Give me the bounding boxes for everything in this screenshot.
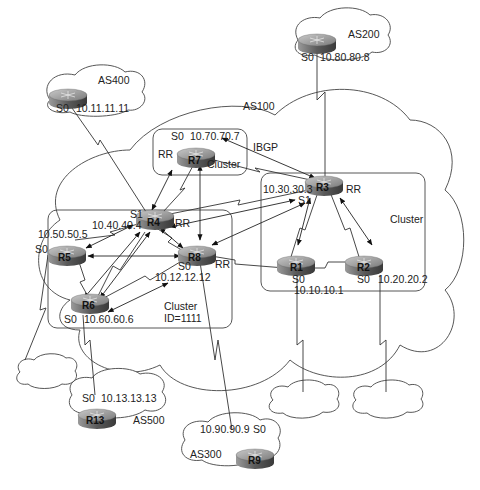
r9-name: R9 [248,455,261,466]
r6-iface: S0 [64,313,77,325]
r2-iface: S0 [357,273,370,285]
r2-name: R2 [357,262,370,273]
r6-name: R6 [82,300,95,311]
r4-cluster-label-2: ID=1111 [164,312,202,324]
as400-iface: S0 [56,102,69,114]
r6-ip: 10.60.60.6 [84,313,134,325]
r2-ip: 10.20.20.2 [378,273,428,285]
as500-label: AS500 [133,414,165,426]
r4-cluster-label-1: Cluster [164,300,198,312]
r7-iface: S0 [171,130,184,142]
r4-role: RR [175,217,191,229]
r3-role: RR [346,183,362,195]
r1-ip: 10.10.10.1 [294,284,344,296]
r5-name: R5 [58,252,71,263]
r7-role: RR [158,148,174,160]
r13-name: R13 [86,415,105,426]
small-cloud-2 [269,380,339,418]
as300-label: AS300 [190,448,222,460]
as200-iface: S0 [301,51,314,63]
as400-label: AS400 [98,74,130,86]
r3-name: R3 [316,182,329,193]
r13-ip: 10.13.13.13 [101,392,157,404]
as200-ip: 10.80.80.8 [320,51,370,63]
r8-role: RR [215,258,231,270]
r8-ip: 10.12.12.12 [155,271,211,283]
r3-iface: S1 [298,194,311,206]
as200-label: AS200 [348,28,380,40]
r9-iface: S0 [253,423,266,435]
r5-iface: S0 [35,243,48,255]
r5-ip: 10.50.50.5 [38,228,88,240]
r3-cluster-label: Cluster [390,213,424,225]
r7-name: R7 [188,155,201,166]
as400-ip: 10.11.11.11 [76,102,129,114]
r13-iface: S0 [82,392,95,404]
small-cloud-3 [353,380,423,418]
r9-ip: 10.90.90.9 [200,423,250,435]
r7-ip: 10.70.70.7 [190,130,240,142]
network-diagram: R7 R3 R4 R5 R8 R6 R1 R2 R13 R9 AS100 AS2… [0,0,480,490]
r4-ip: 10.40.40.4 [92,219,142,231]
as100-label: AS100 [243,100,275,112]
ibgp-label: IBGP [253,141,278,153]
r7-cluster-label: Cluster [207,158,241,170]
r4-name: R4 [147,217,160,228]
r1-name: R1 [290,262,303,273]
